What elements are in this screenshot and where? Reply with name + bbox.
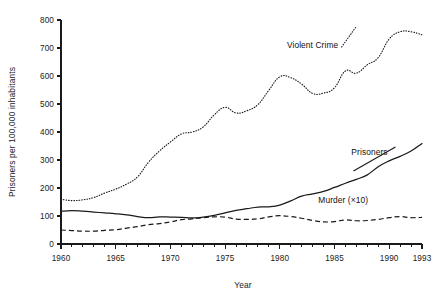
chart-series-annotations: Violent CrimePrisonersMurder (×10) (287, 26, 396, 205)
x-axis-title: Year (234, 280, 252, 290)
series-label-murder-10: Murder (×10) (318, 195, 368, 205)
y-tick-label-700: 700 (40, 44, 54, 53)
chart-tick-labels: 0100200300400500600700800196019651970197… (40, 16, 432, 263)
y-axis-title: Prisoners per 100,000 inhabitants (7, 67, 17, 197)
series-line-murder-10 (61, 216, 422, 232)
y-tick-label-400: 400 (40, 128, 54, 137)
y-tick-label-800: 800 (40, 16, 54, 25)
x-tick-label-1965: 1965 (106, 254, 125, 263)
x-tick-label-1975: 1975 (216, 254, 235, 263)
y-tick-label-100: 100 (40, 212, 54, 221)
y-tick-label-0: 0 (49, 240, 54, 249)
x-tick-label-1970: 1970 (161, 254, 180, 263)
chart-ticks (57, 20, 422, 249)
y-tick-label-500: 500 (40, 100, 54, 109)
series-label-prisoners: Prisoners (351, 147, 387, 157)
chart-axes (61, 20, 422, 244)
series-label-violent-crime: Violent Crime (287, 40, 339, 50)
y-tick-label-200: 200 (40, 184, 54, 193)
y-tick-label-600: 600 (40, 72, 54, 81)
x-tick-label-1960: 1960 (52, 254, 71, 263)
x-tick-label-1993: 1993 (413, 254, 432, 263)
x-tick-label-1990: 1990 (380, 254, 399, 263)
violent-crime-leader-line (342, 26, 357, 47)
chart-container: 0100200300400500600700800196019651970197… (0, 0, 439, 294)
x-tick-label-1980: 1980 (270, 254, 289, 263)
y-tick-label-300: 300 (40, 156, 54, 165)
line-chart: 0100200300400500600700800196019651970197… (0, 0, 439, 294)
x-tick-label-1985: 1985 (325, 254, 344, 263)
